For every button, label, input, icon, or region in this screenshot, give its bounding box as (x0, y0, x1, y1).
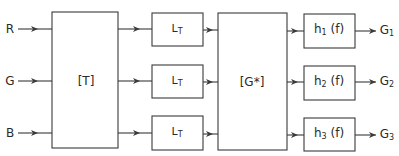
input-label-b: B (6, 127, 14, 139)
lt-label-3: LT (171, 126, 182, 141)
output-label-3: G3 (380, 128, 394, 144)
lt-label-2: LT (171, 75, 182, 90)
output-label-1: G1 (380, 24, 394, 40)
filter-label-1: h1 (f) (314, 23, 344, 39)
filter-label-2: h2 (f) (314, 75, 344, 91)
input-label-r: R (6, 23, 14, 35)
lt-label-1: LT (171, 23, 182, 38)
input-label-g: G (5, 75, 14, 87)
output-label-2: G2 (380, 75, 394, 91)
gstar-label: [G*] (240, 76, 265, 88)
transform-label: [T] (78, 75, 95, 87)
filter-label-3: h3 (f) (314, 127, 344, 143)
